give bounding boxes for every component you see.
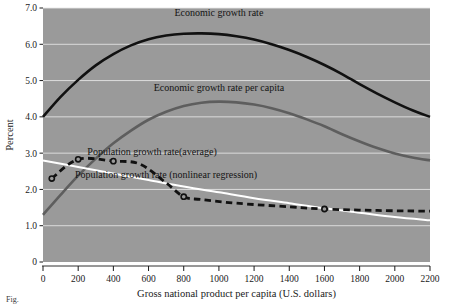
x-tick-label: 1000	[209, 274, 228, 284]
series-label-1: Economic growth rate per capita	[154, 82, 285, 93]
series-marker	[181, 194, 186, 199]
x-tick-label: 1600	[315, 274, 334, 284]
x-tick-label: 1200	[245, 274, 264, 284]
series-marker	[76, 157, 81, 162]
y-tick-label: 6.0	[25, 40, 37, 50]
series-marker	[322, 206, 327, 211]
y-tick-label: 0	[32, 257, 37, 267]
x-tick-label: 2200	[421, 274, 440, 284]
x-tick-label: 200	[71, 274, 86, 284]
y-tick-label: 4.0	[25, 112, 37, 122]
x-tick-label: 0	[41, 274, 46, 284]
x-tick-label: 2000	[385, 274, 404, 284]
y-tick-label: 1.0	[25, 221, 37, 231]
series-marker	[111, 159, 116, 164]
x-tick-label: 1800	[350, 274, 369, 284]
x-axis-label: Gross national product per capita (U.S. …	[137, 288, 336, 300]
series-label-2: Population growth rate(average)	[87, 146, 216, 158]
series-label-3: Population growth rate (nonlinear regres…	[75, 169, 257, 181]
y-tick-label: 2.0	[25, 185, 37, 195]
series-marker	[49, 176, 54, 181]
plot-background	[43, 8, 430, 262]
chart-figure: 01.02.03.04.05.06.07.0 02004006008001000…	[0, 0, 450, 305]
x-tick-label: 600	[141, 274, 156, 284]
y-axis-label: Percent	[4, 119, 15, 151]
x-tick-label: 1400	[280, 274, 299, 284]
figure-caption: Fig.	[6, 295, 19, 304]
x-tick-label: 800	[177, 274, 192, 284]
y-tick-label: 7.0	[25, 3, 37, 13]
series-label-0: Economic growth rate	[174, 7, 263, 18]
x-tick-label: 400	[106, 274, 121, 284]
y-tick-label: 3.0	[25, 149, 37, 159]
y-tick-label: 5.0	[25, 76, 37, 86]
